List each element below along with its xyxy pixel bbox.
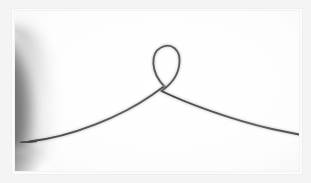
photo-bloom	[14, 10, 300, 172]
wire-loop-photograph	[0, 0, 311, 183]
photo-frame: Macro photograph of a thin dark wire or …	[0, 0, 311, 183]
photo-content	[0, 10, 300, 182]
